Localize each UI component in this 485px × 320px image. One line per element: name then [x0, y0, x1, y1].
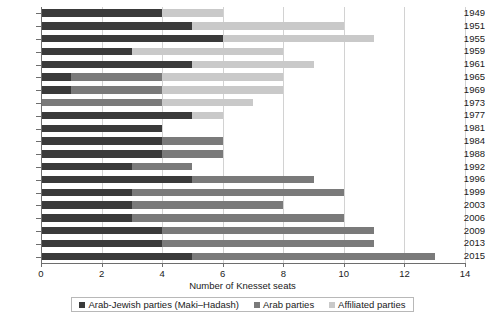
y-axis-tick [36, 257, 41, 258]
y-axis-tick [36, 26, 41, 27]
bar-segment[interactable] [132, 48, 283, 55]
y-axis-tick-label: 2003 [451, 200, 485, 210]
bar-segment[interactable] [132, 163, 193, 170]
bar-segment[interactable] [41, 73, 71, 80]
bar-row[interactable] [41, 71, 465, 83]
bar-segment[interactable] [132, 201, 283, 208]
bar-segment[interactable] [223, 35, 374, 42]
y-axis-tick-label: 2006 [451, 213, 485, 223]
y-axis-tick [36, 90, 41, 91]
chart-legend: Arab-Jewish parties (Maki–Hadash)Arab pa… [71, 297, 414, 312]
bar-row[interactable] [41, 199, 465, 211]
bar-segment[interactable] [41, 240, 162, 247]
bar-segment[interactable] [41, 189, 132, 196]
legend-item-label: Arab parties [263, 299, 314, 310]
bar-segment[interactable] [41, 163, 132, 170]
bar-row[interactable] [41, 250, 465, 262]
bar-segment[interactable] [132, 214, 344, 221]
bar-row[interactable] [41, 161, 465, 173]
y-axis-tick-label: 1961 [451, 59, 485, 69]
bar-segment[interactable] [41, 9, 162, 16]
y-axis-tick-label: 1951 [451, 21, 485, 31]
bar-segment[interactable] [132, 189, 344, 196]
bar-row[interactable] [41, 186, 465, 198]
bar-segment[interactable] [41, 48, 132, 55]
bar-row[interactable] [41, 122, 465, 134]
legend-swatch-icon [254, 302, 260, 308]
y-axis-tick-label: 2015 [451, 251, 485, 261]
bar-segment[interactable] [162, 86, 283, 93]
y-axis-tick [36, 218, 41, 219]
bar-row[interactable] [41, 45, 465, 57]
bar-row[interactable] [41, 97, 465, 109]
bar-segment[interactable] [41, 201, 132, 208]
bar-row[interactable] [41, 7, 465, 19]
bar-segment[interactable] [41, 61, 192, 68]
bar-row[interactable] [41, 148, 465, 160]
bar-segment[interactable] [41, 214, 132, 221]
bar-row[interactable] [41, 84, 465, 96]
bar-segment[interactable] [192, 176, 313, 183]
bar-row[interactable] [41, 109, 465, 121]
bar-segment[interactable] [41, 99, 162, 106]
bar-segment[interactable] [162, 227, 374, 234]
y-axis-tick-label: 1955 [451, 34, 485, 44]
bar-row[interactable] [41, 20, 465, 32]
bar-segment[interactable] [162, 240, 374, 247]
bar-row[interactable] [41, 135, 465, 147]
bar-segment[interactable] [41, 137, 162, 144]
bar-row[interactable] [41, 225, 465, 237]
bar-segment[interactable] [192, 61, 313, 68]
legend-item[interactable]: Arab-Jewish parties (Maki–Hadash) [79, 299, 238, 310]
y-axis-tick [36, 39, 41, 40]
y-axis-tick [36, 103, 41, 104]
y-axis-tick-label: 1959 [451, 46, 485, 56]
y-axis-tick [36, 154, 41, 155]
bar-segment[interactable] [162, 9, 223, 16]
bar-segment[interactable] [41, 22, 192, 29]
plot-area [41, 7, 465, 263]
x-axis-tick-label: 2 [87, 268, 117, 279]
x-axis-tick [223, 263, 224, 267]
y-axis-tick [36, 167, 41, 168]
bar-segment[interactable] [162, 137, 223, 144]
legend-swatch-icon [79, 302, 85, 308]
bar-segment[interactable] [71, 86, 162, 93]
bar-segment[interactable] [41, 35, 223, 42]
x-axis-line [41, 263, 466, 264]
bar-row[interactable] [41, 58, 465, 70]
bar-segment[interactable] [41, 176, 192, 183]
bar-segment[interactable] [162, 150, 223, 157]
bar-segment[interactable] [41, 125, 162, 132]
y-axis-tick [36, 205, 41, 206]
legend-item-label: Arab-Jewish parties (Maki–Hadash) [88, 299, 238, 310]
y-axis-tick-label: 2013 [451, 238, 485, 248]
bar-segment[interactable] [41, 150, 162, 157]
bar-segment[interactable] [41, 227, 162, 234]
bar-segment[interactable] [41, 86, 71, 93]
bar-segment[interactable] [192, 253, 434, 260]
x-axis-tick [344, 263, 345, 267]
bar-segment[interactable] [162, 99, 253, 106]
y-axis-tick [36, 129, 41, 130]
bar-row[interactable] [41, 173, 465, 185]
bar-row[interactable] [41, 33, 465, 45]
y-axis-tick-label: 1992 [451, 162, 485, 172]
x-axis-tick-label: 0 [26, 268, 56, 279]
bar-segment[interactable] [192, 22, 343, 29]
y-axis-tick-label: 1949 [451, 8, 485, 18]
y-axis-tick [36, 244, 41, 245]
bar-segment[interactable] [71, 73, 162, 80]
bar-row[interactable] [41, 212, 465, 224]
x-axis-tick-label: 4 [147, 268, 177, 279]
y-axis-tick [36, 193, 41, 194]
y-axis-tick-label: 1988 [451, 149, 485, 159]
bar-segment[interactable] [41, 112, 192, 119]
bar-segment[interactable] [41, 253, 192, 260]
bar-segment[interactable] [162, 73, 283, 80]
legend-item[interactable]: Affiliated parties [329, 299, 405, 310]
bar-segment[interactable] [192, 112, 222, 119]
legend-item[interactable]: Arab parties [254, 299, 314, 310]
bar-row[interactable] [41, 237, 465, 249]
y-axis-tick [36, 116, 41, 117]
